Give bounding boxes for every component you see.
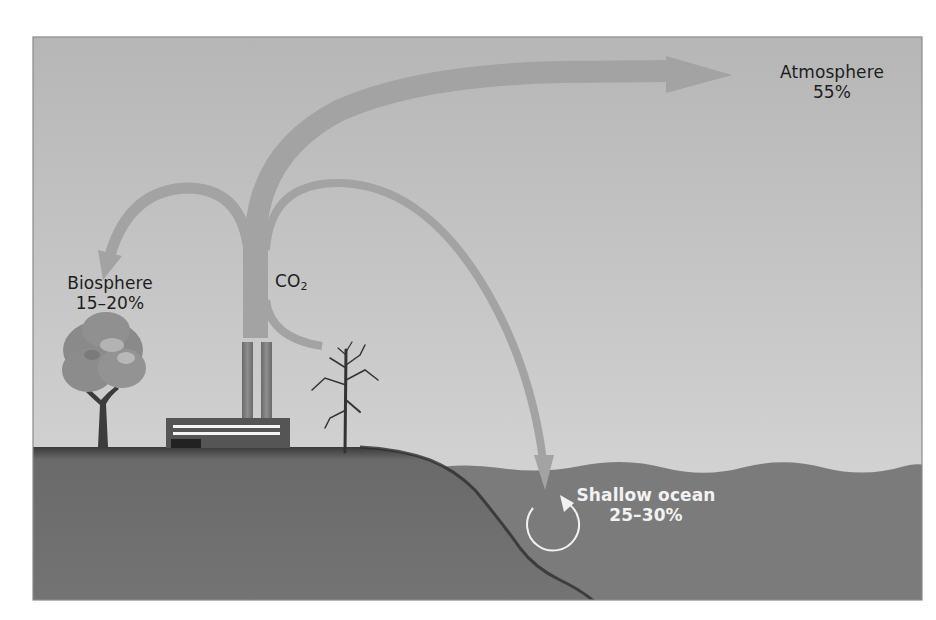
shallow-ocean-name: Shallow ocean bbox=[566, 486, 726, 506]
atmosphere-label: Atmosphere 55% bbox=[752, 63, 912, 102]
atmosphere-name: Atmosphere bbox=[752, 63, 912, 83]
co2-plume-trunk bbox=[243, 230, 268, 338]
co2-label: CO2 bbox=[275, 272, 308, 294]
factory bbox=[166, 418, 290, 448]
co2-subscript: 2 bbox=[300, 280, 307, 293]
smoke-stack-right bbox=[261, 342, 272, 418]
atmosphere-share: 55% bbox=[752, 83, 912, 103]
co2-text: CO bbox=[275, 271, 300, 291]
carbon-flux-diagram: Atmosphere 55% Biosphere 15–20% Shallow … bbox=[0, 0, 936, 620]
biosphere-share: 15–20% bbox=[40, 294, 180, 314]
biosphere-name: Biosphere bbox=[40, 274, 180, 294]
smoke-stack-left bbox=[242, 342, 253, 418]
shallow-ocean-share: 25–30% bbox=[566, 506, 726, 526]
biosphere-label: Biosphere 15–20% bbox=[40, 274, 180, 313]
shallow-ocean-label: Shallow ocean 25–30% bbox=[566, 486, 726, 525]
